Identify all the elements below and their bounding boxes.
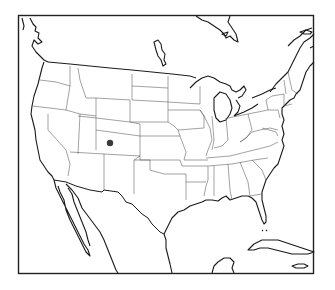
map-frame xyxy=(19,16,314,274)
coastlines xyxy=(22,16,314,273)
state-boundaries xyxy=(32,66,298,200)
us-map xyxy=(0,0,335,290)
location-marker xyxy=(107,140,113,146)
